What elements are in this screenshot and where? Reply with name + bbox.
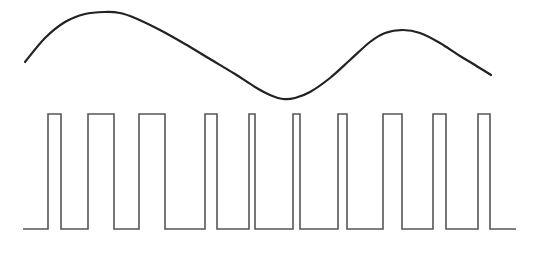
sine-wave [25, 12, 491, 99]
pulse-train [23, 114, 516, 229]
pwm-diagram [0, 0, 539, 255]
